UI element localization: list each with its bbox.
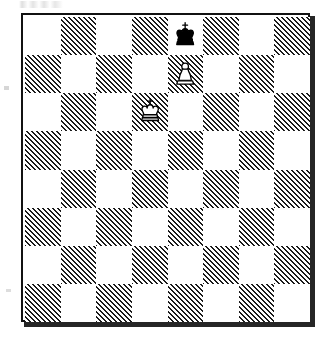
board-square-f2[interactable] [203, 246, 239, 284]
board-square-a7[interactable] [25, 55, 61, 93]
board-square-d5[interactable] [132, 131, 168, 169]
board-square-h4[interactable] [274, 170, 310, 208]
board-square-e6[interactable] [168, 93, 204, 131]
board-square-c5[interactable] [96, 131, 132, 169]
board-square-e5[interactable] [168, 131, 204, 169]
board-square-g4[interactable] [239, 170, 275, 208]
board-square-c8[interactable] [96, 17, 132, 55]
board-square-a4[interactable] [25, 170, 61, 208]
scan-speck-left [4, 86, 9, 90]
board-square-b2[interactable] [61, 246, 97, 284]
board-square-g6[interactable] [239, 93, 275, 131]
chess-diagram-page [0, 0, 336, 340]
board-square-a2[interactable] [25, 246, 61, 284]
board-square-b7[interactable] [61, 55, 97, 93]
board-square-c4[interactable] [96, 170, 132, 208]
scan-speck-bottom [6, 289, 11, 292]
board-square-a8[interactable] [25, 17, 61, 55]
board-square-g1[interactable] [239, 284, 275, 322]
board-square-h1[interactable] [274, 284, 310, 322]
board-square-h5[interactable] [274, 131, 310, 169]
board-square-b3[interactable] [61, 208, 97, 246]
board-square-f7[interactable] [203, 55, 239, 93]
board-square-e7[interactable] [168, 55, 204, 93]
board-square-d6[interactable] [132, 93, 168, 131]
board-square-g7[interactable] [239, 55, 275, 93]
board-square-a5[interactable] [25, 131, 61, 169]
board-square-e3[interactable] [168, 208, 204, 246]
board-square-e1[interactable] [168, 284, 204, 322]
board-square-g5[interactable] [239, 131, 275, 169]
board-square-f1[interactable] [203, 284, 239, 322]
board-square-b1[interactable] [61, 284, 97, 322]
board-square-h6[interactable] [274, 93, 310, 131]
board-square-c6[interactable] [96, 93, 132, 131]
board-square-d8[interactable] [132, 17, 168, 55]
board-square-b5[interactable] [61, 131, 97, 169]
board-square-c7[interactable] [96, 55, 132, 93]
board-square-e2[interactable] [168, 246, 204, 284]
board-square-c3[interactable] [96, 208, 132, 246]
board-square-h7[interactable] [274, 55, 310, 93]
board-square-c2[interactable] [96, 246, 132, 284]
board-square-d3[interactable] [132, 208, 168, 246]
board-square-c1[interactable] [96, 284, 132, 322]
board-square-g3[interactable] [239, 208, 275, 246]
board-square-e4[interactable] [168, 170, 204, 208]
board-border [21, 13, 310, 322]
board-square-g8[interactable] [239, 17, 275, 55]
board-square-f8[interactable] [203, 17, 239, 55]
white-pawn-icon [168, 55, 204, 93]
board-square-f6[interactable] [203, 93, 239, 131]
board-square-d4[interactable] [132, 170, 168, 208]
board-square-b6[interactable] [61, 93, 97, 131]
scan-smudge-top [19, 1, 65, 8]
board-square-f3[interactable] [203, 208, 239, 246]
chess-board [21, 13, 314, 326]
board-square-d1[interactable] [132, 284, 168, 322]
board-square-f4[interactable] [203, 170, 239, 208]
board-square-d2[interactable] [132, 246, 168, 284]
board-square-h3[interactable] [274, 208, 310, 246]
board-square-f5[interactable] [203, 131, 239, 169]
board-square-a6[interactable] [25, 93, 61, 131]
board-square-g2[interactable] [239, 246, 275, 284]
board-square-h8[interactable] [274, 17, 310, 55]
black-king-icon [168, 17, 204, 55]
board-square-a3[interactable] [25, 208, 61, 246]
board-grid [25, 17, 310, 322]
board-square-h2[interactable] [274, 246, 310, 284]
board-square-e8[interactable] [168, 17, 204, 55]
board-square-b4[interactable] [61, 170, 97, 208]
board-square-d7[interactable] [132, 55, 168, 93]
board-square-b8[interactable] [61, 17, 97, 55]
white-king-icon [132, 93, 168, 131]
board-square-a1[interactable] [25, 284, 61, 322]
